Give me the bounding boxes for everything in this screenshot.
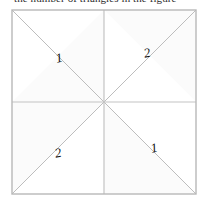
figure-canvas: 1 2 2 1	[0, 0, 209, 208]
geometry-figure: 1 2 2 1	[0, 0, 209, 208]
page-root: the number of triangles in the figure	[0, 0, 209, 208]
